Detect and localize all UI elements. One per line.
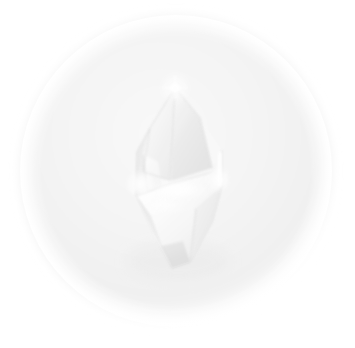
image-canvas: A translucent white quartz crystal point… bbox=[0, 0, 355, 348]
crystal-photograph bbox=[0, 0, 355, 348]
global-bloom-overlay bbox=[0, 0, 355, 348]
